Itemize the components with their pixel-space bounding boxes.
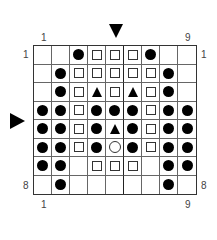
col-label-top-9: 9 [185, 33, 191, 43]
filled-circle-icon [37, 160, 48, 171]
filled-circle-icon [163, 68, 174, 79]
grid-cell [178, 46, 196, 65]
grid-cell [52, 46, 70, 65]
filled-circle-icon [55, 86, 66, 97]
grid-cell [52, 65, 70, 84]
filled-circle-icon [127, 105, 138, 116]
filled-circle-icon [91, 123, 102, 134]
grid-cell [70, 83, 88, 102]
filled-circle-icon [55, 68, 66, 79]
grid-cell [142, 139, 160, 158]
triangle-icon [92, 87, 102, 97]
grid-cell [178, 139, 196, 158]
grid-cell [106, 46, 124, 65]
filled-circle-icon [37, 105, 48, 116]
filled-circle-icon [55, 123, 66, 134]
grid-cell [52, 120, 70, 139]
grid-cell [160, 83, 178, 102]
grid-cell [52, 157, 70, 176]
grid-cell [106, 83, 124, 102]
grid-cell [34, 176, 52, 195]
filled-circle-icon [127, 142, 138, 153]
open-square-icon [146, 142, 156, 152]
open-square-icon [146, 124, 156, 134]
row-label-right-1: 1 [201, 50, 207, 60]
filled-circle-icon [163, 86, 174, 97]
grid-cell [106, 102, 124, 121]
grid-cell [160, 157, 178, 176]
open-square-icon [128, 68, 138, 78]
open-square-icon [110, 161, 120, 171]
open-square-icon [92, 161, 102, 171]
grid-cell [106, 157, 124, 176]
grid-cell [52, 139, 70, 158]
grid-cell [52, 102, 70, 121]
grid-cell [34, 65, 52, 84]
grid-cell [124, 157, 142, 176]
row-label-right-8: 8 [201, 181, 207, 191]
grid-cell [178, 83, 196, 102]
filled-circle-icon [163, 123, 174, 134]
row-marker-arrow-icon [10, 113, 25, 129]
grid-cell [70, 102, 88, 121]
grid-cell [142, 46, 160, 65]
open-square-icon [74, 87, 84, 97]
col-label-top-1: 1 [41, 33, 47, 43]
open-square-icon [74, 68, 84, 78]
grid-cell [34, 139, 52, 158]
grid-cell [88, 102, 106, 121]
open-square-icon [128, 161, 138, 171]
filled-circle-icon [109, 105, 120, 116]
grid-cell [142, 65, 160, 84]
grid-cell [160, 120, 178, 139]
triangle-icon [110, 124, 120, 134]
open-square-icon [74, 105, 84, 115]
grid-cell [142, 83, 160, 102]
open-square-icon [110, 50, 120, 60]
filled-circle-icon [55, 142, 66, 153]
grid-cell [142, 120, 160, 139]
grid-cell [124, 102, 142, 121]
grid-cell [124, 65, 142, 84]
grid-cell [142, 176, 160, 195]
filled-circle-icon [182, 105, 193, 116]
grid-cell [34, 157, 52, 176]
column-marker-arrow-icon [109, 24, 123, 38]
grid-cell [106, 65, 124, 84]
grid-cell [178, 102, 196, 121]
grid-cell [124, 139, 142, 158]
grid-cell [160, 46, 178, 65]
grid-cell [70, 120, 88, 139]
grid-cell [88, 46, 106, 65]
grid-cell [88, 83, 106, 102]
grid-cell [70, 176, 88, 195]
grid-cell [34, 83, 52, 102]
grid-cell [178, 120, 196, 139]
filled-circle-icon [163, 179, 174, 190]
open-circle-icon [109, 141, 121, 153]
filled-circle-icon [127, 123, 138, 134]
open-square-icon [74, 124, 84, 134]
grid-cell [88, 120, 106, 139]
grid-cell [106, 176, 124, 195]
col-label-bottom-1: 1 [41, 200, 47, 210]
grid-cell [88, 65, 106, 84]
filled-circle-icon [163, 160, 174, 171]
open-square-icon [128, 50, 138, 60]
grid-cell [160, 176, 178, 195]
filled-circle-icon [55, 105, 66, 116]
filled-circle-icon [163, 105, 174, 116]
open-square-icon [92, 50, 102, 60]
grid-cell [88, 139, 106, 158]
grid-cell [178, 157, 196, 176]
filled-circle-icon [91, 105, 102, 116]
filled-circle-icon [55, 160, 66, 171]
grid-cell [70, 157, 88, 176]
grid-cell [34, 120, 52, 139]
grid-cell [88, 157, 106, 176]
filled-circle-icon [145, 49, 156, 60]
grid-cell [178, 65, 196, 84]
filled-circle-icon [163, 142, 174, 153]
grid-cell [70, 46, 88, 65]
open-square-icon [146, 105, 156, 115]
